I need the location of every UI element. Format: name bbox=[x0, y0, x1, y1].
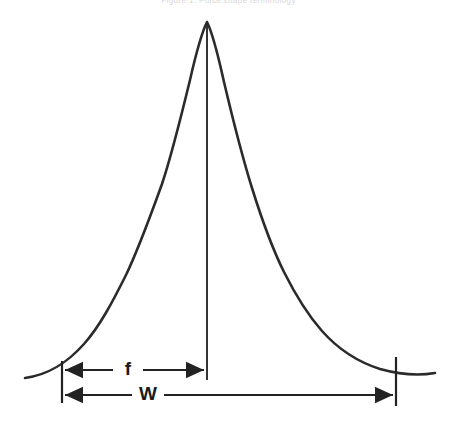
figure-canvas: f W bbox=[0, 0, 457, 430]
bell-curve-path bbox=[25, 22, 435, 378]
full-width-label: W bbox=[139, 383, 157, 404]
bell-curve-figure: Figure 1. Pulse shape terminology f bbox=[0, 0, 457, 430]
half-width-label: f bbox=[125, 358, 132, 379]
